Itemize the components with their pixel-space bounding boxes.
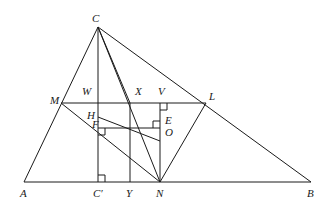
label-X: X <box>134 85 143 97</box>
label-Cprime: C′ <box>93 187 103 199</box>
right-angle-marks <box>98 103 167 182</box>
label-A: A <box>19 187 27 199</box>
label-Y: Y <box>126 187 134 199</box>
segment-HO <box>98 117 160 141</box>
label-V: V <box>158 85 166 97</box>
label-O: O <box>165 126 173 138</box>
label-E: E <box>164 114 172 126</box>
label-B: B <box>307 187 314 199</box>
geometry-diagram: C A B M L N C′ Y W X V H F E O <box>0 0 331 205</box>
right-angle-E <box>153 121 160 128</box>
label-C: C <box>92 12 100 24</box>
segment-MN <box>61 103 160 182</box>
right-angle-Cprime <box>98 175 105 182</box>
label-L: L <box>208 90 215 102</box>
label-W: W <box>82 85 92 97</box>
right-angle-V <box>160 103 167 110</box>
label-F: F <box>91 118 99 130</box>
segment-AC <box>24 27 98 182</box>
label-N: N <box>155 187 164 199</box>
label-M: M <box>49 94 60 106</box>
